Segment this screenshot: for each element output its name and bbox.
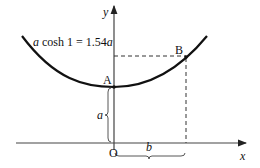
x-axis-label: x (239, 149, 246, 163)
catenary-diagram: a cosh 1 = 1.54a y x O A B a b (0, 0, 260, 168)
point-a-label: A (103, 73, 112, 87)
height-label: a (97, 108, 103, 122)
point-a-marker (112, 85, 116, 89)
point-b-marker (184, 55, 188, 59)
equation-label: a cosh 1 = 1.54a (33, 35, 113, 49)
origin-label: O (109, 146, 118, 160)
point-b-label: B (175, 43, 183, 57)
height-brace (105, 88, 111, 142)
y-axis-label: y (102, 5, 109, 19)
width-label: b (146, 140, 152, 154)
